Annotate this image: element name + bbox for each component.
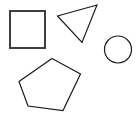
shapes-svg <box>0 0 140 125</box>
shape-canvas <box>0 0 140 125</box>
